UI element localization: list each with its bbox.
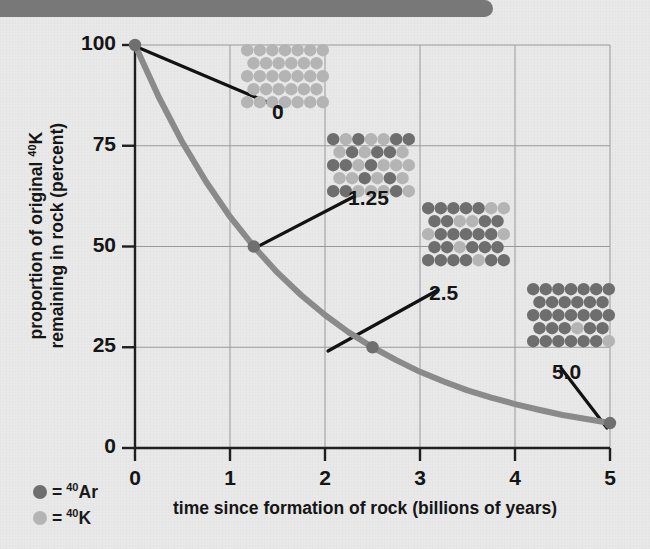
k40-atom-dot	[396, 172, 408, 184]
k40-atom-dot	[346, 172, 358, 184]
k40-atom-dot	[333, 172, 345, 184]
k40-atom-dot	[352, 159, 364, 171]
k40-atom-dot	[279, 44, 291, 56]
ar40-atom-dot	[479, 215, 491, 227]
k40-atom-dot	[310, 57, 322, 69]
k40-atom-dot	[365, 133, 377, 145]
ar40-atom-dot	[371, 146, 383, 158]
k40-atom-dot	[466, 215, 478, 227]
k40-atom-dot	[273, 57, 285, 69]
ar40-atom-dot	[603, 309, 615, 321]
ar40-atom-dot	[590, 335, 602, 347]
ar40-atom-dot	[390, 185, 402, 197]
ar40-atom-dot	[546, 322, 558, 334]
ar40-atom-dot	[565, 283, 577, 295]
legend-item: =40K	[33, 505, 98, 531]
k40-atom-dot	[260, 83, 272, 95]
k40-atom-dot	[396, 146, 408, 158]
legend-item: =40Ar	[33, 479, 98, 505]
k40-atom-dot	[254, 70, 266, 82]
y-axis-title: proportion of original 40K remaining in …	[26, 106, 67, 366]
y-tick-label: 75	[93, 132, 116, 156]
k40-atom-dot	[304, 96, 316, 108]
k40-atom-dot	[454, 215, 466, 227]
k40-atom-dot	[603, 335, 615, 347]
data-point-markers-group	[129, 39, 616, 429]
annotation-value-label: 1.25	[348, 186, 389, 210]
ar40-atom-dot	[540, 283, 552, 295]
k40-legend-dot-icon	[33, 511, 47, 525]
k40-atom-dot	[279, 70, 291, 82]
ar40-atom-dot	[327, 159, 339, 171]
x-axis-title: time since formation of rock (billions o…	[150, 498, 580, 519]
data-point-marker	[129, 39, 141, 51]
ar40-atom-dot	[460, 202, 472, 214]
k40-atom-dot	[254, 96, 266, 108]
k40-atom-dot	[298, 57, 310, 69]
ar40-atom-dot	[584, 322, 596, 334]
ar40-atom-dot	[346, 146, 358, 158]
chart-page: 0255075100 012345 01.252.55.0 proportion…	[0, 0, 650, 549]
y-axis-title-part2: remaining in rock (percent)	[47, 123, 67, 349]
ar40-atom-dot	[584, 296, 596, 308]
ar40-atom-dot	[590, 309, 602, 321]
ar40-atom-dot	[340, 159, 352, 171]
legend: =40Ar=40K	[33, 479, 98, 531]
k40-atom-dot	[241, 96, 253, 108]
ar40-atom-dot	[552, 283, 564, 295]
ar40-atom-dot	[559, 322, 571, 334]
y-axis-title-part1: proportion of original	[26, 157, 46, 340]
ar40-atom-dot	[384, 172, 396, 184]
ar40-atom-dot	[527, 335, 539, 347]
k40-atom-dot	[304, 70, 316, 82]
legend-mass-number: 40	[66, 507, 78, 519]
ar40-atom-dot	[533, 296, 545, 308]
k40-atom-dot	[317, 44, 329, 56]
ar40-atom-dot	[527, 309, 539, 321]
decay-curve-group	[135, 45, 610, 423]
ar40-atom-dot	[447, 202, 459, 214]
k40-atom-dot	[291, 96, 303, 108]
ar40-atom-dot	[571, 296, 583, 308]
x-tick-label: 0	[115, 466, 155, 490]
y-axis-title-superscript: 40	[26, 144, 38, 156]
k40-atom-dot	[291, 70, 303, 82]
ar40-atom-dot	[447, 228, 459, 240]
ar40-atom-dot	[441, 215, 453, 227]
k40-atom-dot	[247, 83, 259, 95]
legend-item-label: 40K	[66, 508, 91, 529]
gridlines-group	[135, 45, 610, 448]
k40-atom-dot	[422, 228, 434, 240]
k40-atom-dot	[241, 70, 253, 82]
annotation-value-label: 0	[272, 100, 284, 124]
k40-atom-dot	[498, 228, 510, 240]
ar40-atom-dot	[552, 309, 564, 321]
k40-atom-dot	[485, 202, 497, 214]
k40-atom-dot	[298, 83, 310, 95]
x-tick-label: 2	[305, 466, 345, 490]
ar40-atom-dot	[491, 241, 503, 253]
tick-marks-group	[122, 45, 610, 461]
ar40-atom-dot	[552, 335, 564, 347]
k40-atom-dot	[377, 159, 389, 171]
x-tick-label: 4	[495, 466, 535, 490]
annotation-value-label: 2.5	[429, 281, 458, 305]
y-tick-label: 50	[93, 233, 116, 257]
ar40-atom-dot	[365, 159, 377, 171]
k40-atom-dot	[317, 96, 329, 108]
ar40-atom-dot	[472, 202, 484, 214]
ar40-atom-dot	[403, 133, 415, 145]
k40-atom-dot	[273, 83, 285, 95]
ar40-atom-dot	[577, 309, 589, 321]
ar40-atom-dot	[384, 146, 396, 158]
ar40-atom-dot	[460, 254, 472, 266]
atom-cluster	[422, 202, 510, 266]
x-tick-label: 5	[590, 466, 630, 490]
ar40-atom-dot	[435, 228, 447, 240]
ar40-atom-dot	[540, 309, 552, 321]
ar40-atom-dot	[577, 283, 589, 295]
y-axis-title-element: K	[26, 132, 46, 145]
ar40-atom-dot	[491, 215, 503, 227]
ar40-atom-dot	[533, 322, 545, 334]
y-tick-label: 25	[93, 333, 116, 357]
